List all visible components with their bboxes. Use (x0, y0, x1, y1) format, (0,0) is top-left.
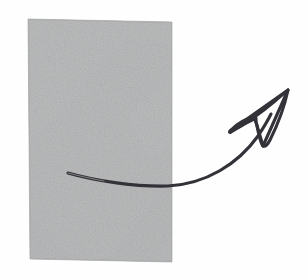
arrow-region (64, 84, 294, 194)
illustration-canvas (0, 0, 308, 278)
